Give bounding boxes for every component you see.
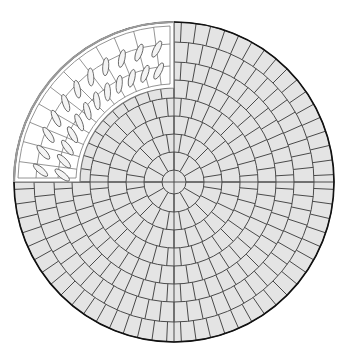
- paving-diagram: [0, 0, 348, 356]
